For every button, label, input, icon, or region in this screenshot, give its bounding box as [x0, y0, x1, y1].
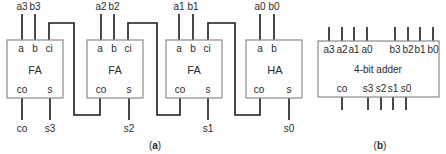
full-adder-bit2: a2 b2 a b ci FA co s s2	[87, 1, 143, 134]
input-label-a2: a2	[95, 1, 107, 12]
input-label-b1: b1	[187, 1, 199, 12]
output-label-co: co	[17, 123, 28, 134]
input-label-a0: a0	[254, 1, 266, 12]
port-s1: s1	[388, 83, 399, 94]
port-b3: b3	[389, 44, 401, 55]
port-s: s	[48, 84, 53, 95]
block-name: FA	[187, 64, 201, 76]
input-label-b2: b2	[108, 1, 120, 12]
port-s: s	[287, 84, 292, 95]
port-a: a	[257, 43, 263, 54]
output-label-s1: s1	[203, 123, 214, 134]
port-s: s	[206, 84, 211, 95]
block-name: HA	[267, 64, 283, 76]
port-a: a	[18, 43, 24, 54]
output-label-s2: s2	[124, 123, 135, 134]
port-b: b	[111, 43, 117, 54]
output-label-s3: s3	[45, 123, 56, 134]
port-s0: s0	[401, 83, 412, 94]
port-co: co	[254, 84, 265, 95]
adder-diagram: a3 b3 a b ci FA co s co s3 a2 b2 a b ci …	[0, 0, 446, 154]
port-ci: ci	[124, 43, 131, 54]
input-label-a3: a3	[16, 1, 28, 12]
output-label-s0: s0	[284, 123, 295, 134]
port-co: co	[175, 84, 186, 95]
input-label-b3: b3	[29, 1, 41, 12]
port-a: a	[97, 43, 103, 54]
port-ci: ci	[45, 43, 52, 54]
port-a1: a1	[348, 44, 360, 55]
port-a: a	[176, 43, 182, 54]
input-label-a1: a1	[173, 1, 185, 12]
port-s3: s3	[363, 83, 374, 94]
input-pins	[329, 27, 433, 41]
port-b0: b0	[427, 44, 439, 55]
port-b: b	[190, 43, 196, 54]
caption-a: (a)	[149, 140, 161, 151]
port-a0: a0	[361, 44, 373, 55]
port-a2: a2	[336, 44, 348, 55]
port-b1: b1	[414, 44, 426, 55]
port-co: co	[17, 84, 28, 95]
block-name: 4-bit adder	[354, 64, 402, 75]
caption-b: (b)	[374, 140, 387, 151]
output-pins	[342, 97, 406, 110]
full-adder-bit1: a1 b1 a b ci FA co s s1	[166, 1, 222, 134]
port-b2: b2	[402, 44, 414, 55]
port-b: b	[271, 43, 277, 54]
four-bit-adder-block: a3 a2 a1 a0 b3 b2 b1 b0 4-bit adder co s…	[318, 27, 439, 151]
block-name: FA	[108, 64, 122, 76]
port-co: co	[96, 84, 107, 95]
port-b: b	[32, 43, 38, 54]
port-ci: ci	[203, 43, 210, 54]
port-co: co	[337, 83, 348, 94]
port-a3: a3	[323, 44, 335, 55]
input-label-b0: b0	[268, 1, 280, 12]
block-name: FA	[28, 64, 42, 76]
port-s: s	[127, 84, 132, 95]
port-s2: s2	[376, 83, 387, 94]
ripple-carry-adder: a3 b3 a b ci FA co s co s3 a2 b2 a b ci …	[7, 1, 302, 151]
